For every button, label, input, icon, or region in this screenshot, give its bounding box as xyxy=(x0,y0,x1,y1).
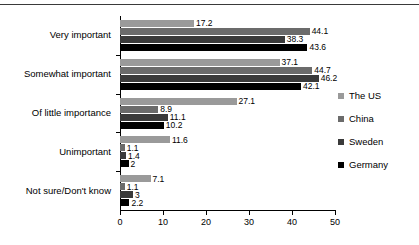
bar-value-label: 2 xyxy=(129,159,136,169)
bar-row: 43.6 xyxy=(120,44,335,51)
bar-value-label: 11.6 xyxy=(170,135,188,145)
category-axis-label: Not sure/Don't know xyxy=(0,185,111,196)
bar xyxy=(120,199,129,206)
bar-row: 11.1 xyxy=(120,114,335,121)
category-axis-label: Very important xyxy=(0,29,111,40)
x-axis-tick xyxy=(292,211,293,215)
x-axis-tick-label: 20 xyxy=(191,217,221,228)
bar xyxy=(120,67,312,74)
x-axis-tick xyxy=(335,211,336,215)
bar xyxy=(120,36,285,43)
x-axis-tick-label: 0 xyxy=(105,217,135,228)
bar-row: 1.4 xyxy=(120,152,335,159)
bar-row: 8.9 xyxy=(120,106,335,113)
x-axis-tick-label: 10 xyxy=(148,217,178,228)
x-axis-tick-label: 50 xyxy=(320,217,350,228)
bar-row: 44.7 xyxy=(120,67,335,74)
bar xyxy=(120,98,237,105)
bar xyxy=(120,75,319,82)
legend-label: Sweden xyxy=(349,136,383,147)
bar-row: 3 xyxy=(120,191,335,198)
bar-row: 37.1 xyxy=(120,59,335,66)
bar xyxy=(120,114,168,121)
category-group: Unimportant11.61.11.42 xyxy=(120,136,335,167)
legend-swatch-icon xyxy=(338,93,344,99)
bar xyxy=(120,160,129,167)
category-group: Very important17.244.138.343.6 xyxy=(120,20,335,51)
legend-label: Germany xyxy=(349,159,388,170)
legend-item[interactable]: The US xyxy=(338,90,418,101)
legend-swatch-icon xyxy=(338,139,344,145)
chart-legend: The USChinaSwedenGermany xyxy=(338,90,418,182)
bar xyxy=(120,28,310,35)
y-axis-tick xyxy=(116,55,120,56)
y-axis-tick xyxy=(116,132,120,133)
bar-row: 1.1 xyxy=(120,144,335,151)
bar-value-label: 37.1 xyxy=(280,57,299,67)
bar-row: 1.1 xyxy=(120,183,335,190)
bar xyxy=(120,83,301,90)
x-axis-tick xyxy=(206,211,207,215)
legend-swatch-icon xyxy=(338,162,344,168)
top-divider-rule xyxy=(0,4,419,5)
bar xyxy=(120,44,307,51)
bar-value-label: 46.2 xyxy=(319,73,338,83)
bar-value-label: 2.2 xyxy=(129,198,143,208)
bar-row: 42.1 xyxy=(120,83,335,90)
category-axis-label: Of little importance xyxy=(0,107,111,118)
x-axis-line xyxy=(120,210,336,211)
category-group: Of little importance27.18.911.110.2 xyxy=(120,98,335,129)
y-axis-tick xyxy=(116,171,120,172)
bar-value-label: 17.2 xyxy=(194,18,213,28)
bar xyxy=(120,59,280,66)
bar xyxy=(120,106,158,113)
bar-value-label: 43.6 xyxy=(307,42,326,52)
bar xyxy=(120,122,164,129)
bar-value-label: 44.1 xyxy=(310,26,329,36)
bar-row: 7.1 xyxy=(120,175,335,182)
bar-value-label: 38.3 xyxy=(285,34,304,44)
category-group: Somewhat important37.144.746.242.1 xyxy=(120,59,335,90)
legend-item[interactable]: China xyxy=(338,113,418,124)
bar-row: 2 xyxy=(120,160,335,167)
bar-value-label: 10.2 xyxy=(164,120,183,130)
bar-value-label: 42.1 xyxy=(301,81,320,91)
x-axis-tick xyxy=(120,211,121,215)
x-axis-tick xyxy=(249,211,250,215)
legend-swatch-icon xyxy=(338,116,344,122)
x-axis-tick-label: 30 xyxy=(234,217,264,228)
bar-row: 11.6 xyxy=(120,136,335,143)
bar-value-label: 7.1 xyxy=(151,174,165,184)
x-axis-tick xyxy=(163,211,164,215)
bar-chart: Very important17.244.138.343.6Somewhat i… xyxy=(0,0,419,245)
x-axis-tick-label: 40 xyxy=(277,217,307,228)
legend-item[interactable]: Sweden xyxy=(338,136,418,147)
category-axis-label: Unimportant xyxy=(0,146,111,157)
bar-row: 17.2 xyxy=(120,20,335,27)
legend-label: China xyxy=(349,113,374,124)
category-group: Not sure/Don't know7.11.132.2 xyxy=(120,175,335,206)
plot-area: Very important17.244.138.343.6Somewhat i… xyxy=(120,16,335,210)
legend-item[interactable]: Germany xyxy=(338,159,418,170)
bar-row: 2.2 xyxy=(120,199,335,206)
bar xyxy=(120,20,194,27)
category-axis-label: Somewhat important xyxy=(0,68,111,79)
legend-label: The US xyxy=(349,90,381,101)
bar-value-label: 27.1 xyxy=(237,96,256,106)
bar-row: 38.3 xyxy=(120,36,335,43)
bar-row: 27.1 xyxy=(120,98,335,105)
y-axis-tick xyxy=(116,94,120,95)
bar-row: 10.2 xyxy=(120,122,335,129)
